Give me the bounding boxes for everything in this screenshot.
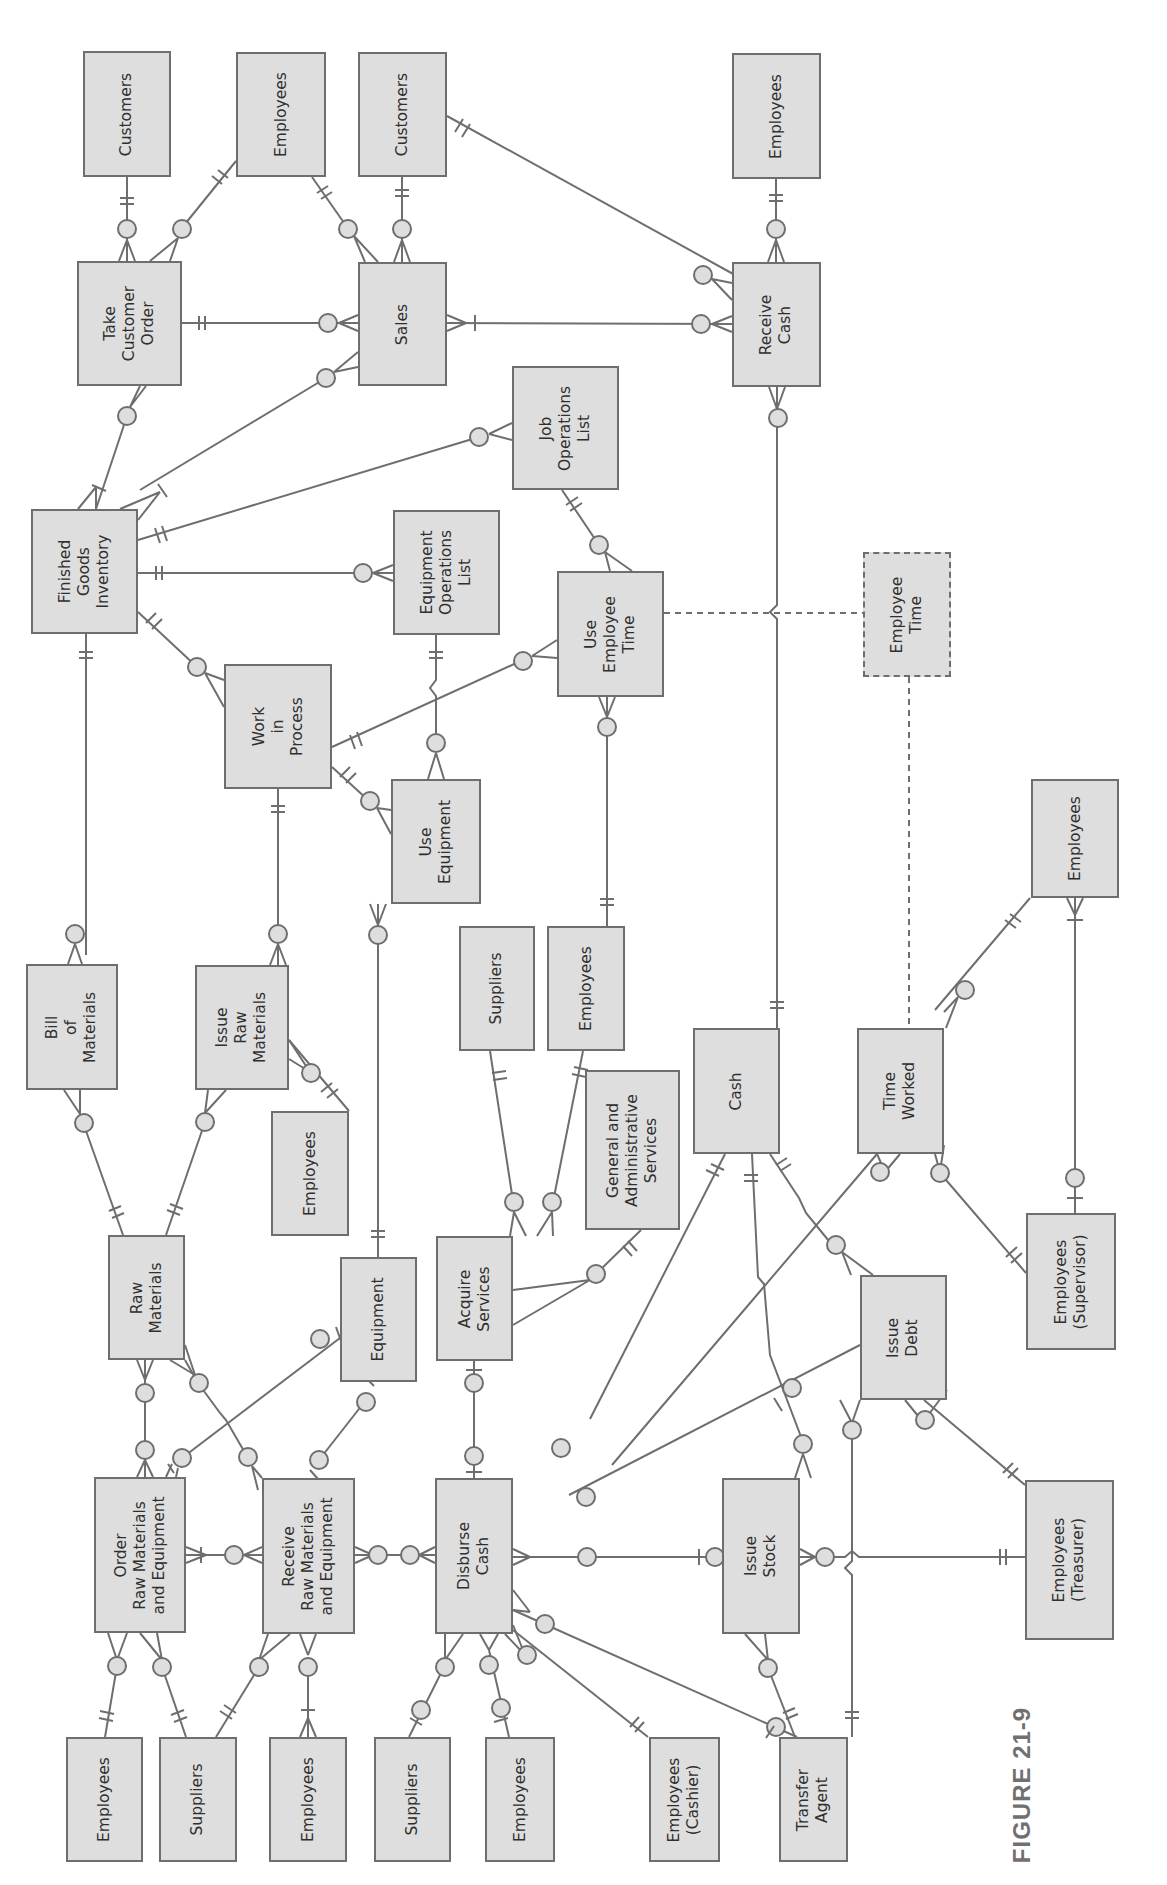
- entity-general-administrative-services: General and Administrative Services: [585, 1070, 680, 1230]
- figure-caption: FIGURE 21-9: [1002, 1700, 1042, 1870]
- entity-suppliers: Suppliers: [159, 1737, 237, 1862]
- entity-time-worked: Time Worked: [857, 1028, 944, 1154]
- entity-acquire-services: Acquire Services: [436, 1236, 513, 1361]
- entity-label: Work in Process: [250, 697, 307, 756]
- entity-employees-supervisor: Employees (Supervisor): [1026, 1213, 1116, 1350]
- figure-caption-text: FIGURE 21-9: [1008, 1707, 1036, 1863]
- entity-employees: Employees: [271, 1111, 349, 1236]
- entity-job-operations-list: Job Operations List: [512, 366, 619, 490]
- entity-customers: Customers: [83, 51, 171, 177]
- entity-equipment-operations-list: Equipment Operations List: [393, 510, 500, 635]
- entity-employees-treasurer: Employees (Treasurer): [1025, 1480, 1114, 1640]
- entity-label: Transfer Agent: [794, 1768, 832, 1830]
- entity-employees: Employees: [1031, 779, 1119, 898]
- entity-label: Raw Materials: [127, 1262, 165, 1333]
- entity-use-equipment: Use Equipment: [391, 779, 481, 904]
- entity-bill-of-materials: Bill of Materials: [26, 964, 118, 1090]
- entity-transfer-agent: Transfer Agent: [779, 1737, 848, 1862]
- entity-label: Employees (Cashier): [666, 1757, 704, 1842]
- entity-label: Employees (Supervisor): [1052, 1234, 1090, 1329]
- entity-receive-raw-materials-equipment: Receive Raw Materials and Equipment: [262, 1478, 355, 1634]
- entity-take-customer-order: Take Customer Order: [77, 261, 182, 386]
- entity-issue-stock: Issue Stock: [722, 1478, 800, 1634]
- entity-label: Equipment Operations List: [418, 530, 475, 615]
- entity-label: Issue Raw Materials: [213, 992, 270, 1063]
- entity-issue-debt: Issue Debt: [860, 1275, 947, 1400]
- entity-label: Bill of Materials: [43, 991, 100, 1062]
- entity-label: Use Equipment: [417, 799, 455, 883]
- entity-label: Time Worked: [881, 1062, 919, 1120]
- entity-employees: Employees: [269, 1737, 347, 1862]
- entity-work-in-process: Work in Process: [224, 664, 332, 789]
- entity-suppliers: Suppliers: [459, 926, 535, 1051]
- entity-customers: Customers: [358, 52, 447, 177]
- entity-label: Receive Raw Materials and Equipment: [280, 1497, 337, 1615]
- entity-label: Employees (Treasurer): [1051, 1518, 1089, 1603]
- entity-employees-cashier: Employees (Cashier): [649, 1737, 720, 1862]
- entity-issue-raw-materials: Issue Raw Materials: [195, 965, 289, 1090]
- entity-label: Employees: [301, 1131, 320, 1216]
- entity-label: Suppliers: [488, 953, 507, 1025]
- entity-label: Order Raw Materials and Equipment: [112, 1496, 169, 1614]
- entity-label: General and Administrative Services: [604, 1094, 661, 1207]
- entity-employees: Employees: [66, 1737, 143, 1862]
- entity-employee-time: Employee Time: [863, 552, 951, 677]
- entity-label: Issue Stock: [742, 1535, 780, 1578]
- entity-label: Employees: [511, 1757, 530, 1842]
- entity-label: Equipment: [369, 1277, 388, 1361]
- entity-order-raw-materials-equipment: Order Raw Materials and Equipment: [94, 1477, 186, 1633]
- entity-label: Take Customer Order: [101, 286, 158, 361]
- entity-label: Issue Debt: [885, 1317, 923, 1357]
- entity-label: Receive Cash: [758, 294, 796, 355]
- entity-label: Job Operations List: [537, 385, 594, 470]
- entity-sales: Sales: [358, 262, 447, 386]
- entity-suppliers: Suppliers: [374, 1737, 451, 1862]
- entity-label: Disburse Cash: [455, 1522, 493, 1590]
- entity-label: Suppliers: [403, 1764, 422, 1836]
- entity-label: Employees: [272, 72, 291, 157]
- entity-receive-cash: Receive Cash: [732, 262, 821, 387]
- entity-label: Suppliers: [189, 1764, 208, 1836]
- entity-label: Cash: [727, 1072, 746, 1110]
- entity-employees: Employees: [236, 52, 326, 177]
- entity-label: Employee Time: [888, 576, 926, 653]
- entity-label: Sales: [393, 303, 412, 344]
- entity-label: Employees: [767, 74, 786, 159]
- entity-label: Acquire Services: [456, 1266, 494, 1331]
- entity-label: Customers: [118, 72, 137, 155]
- entity-label: Finished Goods Inventory: [56, 534, 113, 608]
- entity-disburse-cash: Disburse Cash: [435, 1478, 513, 1634]
- entity-raw-materials: Raw Materials: [108, 1235, 185, 1360]
- entity-employees: Employees: [547, 926, 625, 1051]
- entity-equipment: Equipment: [340, 1257, 417, 1382]
- entity-use-employee-time: Use Employee Time: [557, 571, 664, 697]
- entity-employees: Employees: [485, 1737, 555, 1862]
- er-diagram: Customers Employees Customers Employees …: [0, 0, 1167, 1885]
- entity-label: Employees: [577, 946, 596, 1031]
- entity-label: Customers: [393, 73, 412, 156]
- entity-label: Employees: [95, 1757, 114, 1842]
- entity-label: Employees: [299, 1757, 318, 1842]
- entity-label: Use Employee Time: [582, 596, 639, 673]
- entity-finished-goods-inventory: Finished Goods Inventory: [31, 509, 138, 634]
- entity-label: Employees: [1066, 796, 1085, 881]
- entity-cash: Cash: [693, 1028, 780, 1154]
- entity-employees: Employees: [732, 53, 821, 179]
